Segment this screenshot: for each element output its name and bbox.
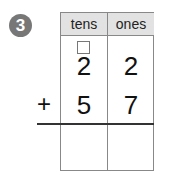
answer-tens[interactable] — [61, 128, 107, 168]
addend1-ones: 2 — [108, 51, 154, 82]
addend1-tens: 2 — [61, 51, 107, 82]
addend2-ones: 7 — [108, 90, 154, 121]
answer-ones[interactable] — [108, 128, 154, 168]
problem-number-badge: 3 — [9, 14, 32, 37]
header-tens: tens — [61, 13, 108, 36]
sum-line — [37, 123, 154, 125]
addend2-tens: 5 — [61, 90, 107, 121]
header-ones: ones — [108, 13, 154, 36]
place-value-table: tens ones 2 2 5 7 — [60, 12, 154, 171]
plus-sign: + — [37, 90, 51, 118]
